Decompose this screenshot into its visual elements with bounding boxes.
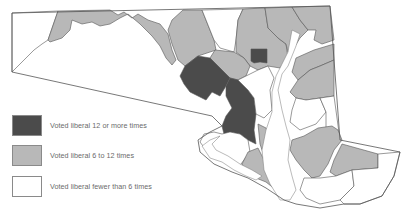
legend-label-low: Voted liberal fewer than 6 times — [50, 182, 152, 191]
legend-item-mid: Voted liberal 6 to 12 times — [12, 144, 134, 166]
legend-swatch-white — [12, 176, 42, 197]
county-talbot — [290, 98, 326, 130]
legend-swatch-gray — [12, 145, 42, 166]
legend-label-mid: Voted liberal 6 to 12 times — [50, 151, 134, 160]
legend-item-high: Voted liberal 12 or more times — [12, 114, 147, 136]
legend-swatch-dark — [12, 115, 42, 136]
county-allegany-washington — [48, 10, 176, 65]
legend-item-low: Voted liberal fewer than 6 times — [12, 175, 152, 197]
legend-label-high: Voted liberal 12 or more times — [50, 121, 147, 130]
county-baltimore-city — [251, 49, 267, 63]
